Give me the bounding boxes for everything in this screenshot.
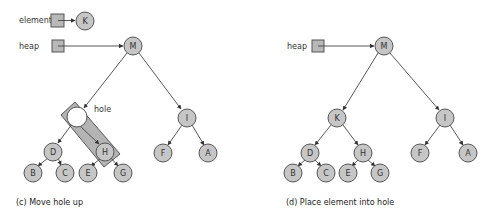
edge-m-i-d <box>390 53 439 110</box>
node-i-d: I <box>436 109 454 127</box>
edge-hole-d <box>58 124 72 143</box>
heap-label-d: heap <box>287 42 307 51</box>
node-h: H <box>96 143 114 161</box>
edge-d-c-d <box>315 160 321 166</box>
node-f-d: F <box>411 144 429 162</box>
svg-text:G: G <box>120 169 126 178</box>
root-node-m: M <box>124 37 142 55</box>
node-b-d: B <box>284 164 302 182</box>
svg-text:I: I <box>444 114 446 123</box>
root-node-m-d: M <box>375 37 393 55</box>
caption-d: (d) Place element into hole <box>286 198 394 207</box>
edge-m-hole <box>84 53 127 108</box>
node-e-d: E <box>339 164 357 182</box>
node-i: I <box>178 109 196 127</box>
edge-i-f <box>168 125 182 145</box>
svg-text:C: C <box>323 169 329 178</box>
svg-text:M: M <box>130 42 137 51</box>
edge-i-f-d <box>425 125 440 145</box>
hole-node <box>67 107 87 127</box>
node-a-d: A <box>459 144 477 162</box>
edge-k-d <box>315 125 331 145</box>
edge-d-b <box>38 158 48 166</box>
svg-text:H: H <box>360 149 366 158</box>
element-node-k: K <box>76 12 94 30</box>
svg-text:A: A <box>465 149 471 158</box>
svg-text:D: D <box>307 149 313 158</box>
svg-text:D: D <box>50 148 56 157</box>
panel-c-move-hole-up: element K heap M hole D H B C E G <box>16 12 217 207</box>
svg-text:G: G <box>377 169 383 178</box>
svg-text:B: B <box>30 169 36 178</box>
svg-text:F: F <box>418 149 423 158</box>
panel-d-place-element: heap M K D H B C E G I F A (d) Place ele… <box>284 37 477 207</box>
heap-diagram: element K heap M hole D H B C E G <box>0 0 492 221</box>
edge-h-g-d <box>368 160 375 166</box>
svg-text:E: E <box>85 169 90 178</box>
edge-m-k <box>343 53 378 110</box>
svg-text:H: H <box>102 148 108 157</box>
heap-label: heap <box>19 42 39 51</box>
node-c: C <box>56 164 74 182</box>
node-e: E <box>79 164 97 182</box>
svg-text:C: C <box>62 169 68 178</box>
element-label: element <box>19 16 52 25</box>
svg-text:K: K <box>82 17 88 26</box>
edge-m-i <box>139 53 181 109</box>
node-c-d: C <box>317 164 335 182</box>
node-b: B <box>24 164 42 182</box>
svg-text:A: A <box>205 149 211 158</box>
edge-d-b-d <box>298 160 305 166</box>
svg-text:I: I <box>186 114 188 123</box>
node-g: G <box>114 164 132 182</box>
node-k-d: K <box>328 109 346 127</box>
hole-label: hole <box>94 105 111 114</box>
svg-text:E: E <box>345 169 350 178</box>
caption-c: (c) Move hole up <box>16 198 83 207</box>
edge-i-a-d <box>450 125 463 145</box>
svg-text:B: B <box>290 169 296 178</box>
svg-text:K: K <box>334 114 340 123</box>
svg-text:F: F <box>161 149 166 158</box>
node-d-d: D <box>301 144 319 162</box>
node-d: D <box>44 143 62 161</box>
edge-i-a <box>192 125 204 145</box>
edge-h-g <box>111 158 118 166</box>
node-g-d: G <box>371 164 389 182</box>
svg-text:M: M <box>381 42 388 51</box>
node-a: A <box>199 144 217 162</box>
node-h-d: H <box>354 144 372 162</box>
node-f: F <box>154 144 172 162</box>
edge-k-h <box>343 125 358 145</box>
